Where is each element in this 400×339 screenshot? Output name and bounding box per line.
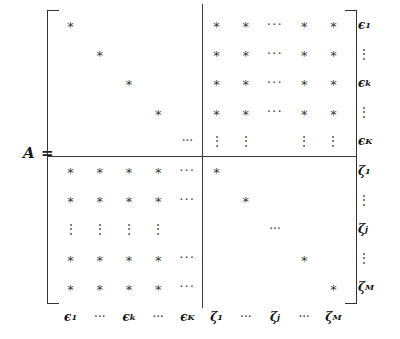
matrix-cell: * xyxy=(114,68,143,97)
row-label: ϵK xyxy=(356,127,398,156)
column-labels: ϵ1···ϵk···ϵKζ1···ζj···ζM xyxy=(56,304,348,330)
vdots-ellipsis: ⋮ xyxy=(123,223,135,235)
matrix-entry-star: * xyxy=(97,282,104,295)
matrix-cell xyxy=(231,244,260,273)
matrix-entry-star: * xyxy=(301,253,308,266)
column-label: ζj xyxy=(260,304,289,330)
matrix-cell: * xyxy=(85,244,114,273)
row-label-ellipsis: ⋮ xyxy=(356,98,398,127)
matrix-cell: * xyxy=(290,68,319,97)
matrix-cell: * xyxy=(56,10,85,39)
matrix-cell: ⋮ xyxy=(114,214,143,243)
hdots-ellipsis: ··· xyxy=(267,48,283,60)
matrix-cell: * xyxy=(231,10,260,39)
matrix-entry-star: * xyxy=(301,78,308,91)
ddots-ellipsis: ··· xyxy=(182,135,193,147)
matrix-entry-star: * xyxy=(126,195,133,208)
vdots-ellipsis: ⋮ xyxy=(65,223,77,235)
matrix-cell: * xyxy=(144,244,173,273)
vdots-ellipsis: ⋮ xyxy=(240,135,252,147)
matrix-entry-star: * xyxy=(126,78,133,91)
matrix-cell xyxy=(231,214,260,243)
block-matrix-figure: A = ***···*****···*****···*****···**···⋮… xyxy=(0,0,400,339)
matrix-cell xyxy=(144,39,173,68)
matrix-cell xyxy=(173,39,202,68)
matrix-cell xyxy=(260,244,289,273)
matrix-entry-star: * xyxy=(155,195,162,208)
hdots-ellipsis: ··· xyxy=(179,165,195,177)
matrix-entry-star: * xyxy=(213,166,220,179)
matrix-cell xyxy=(173,214,202,243)
matrix-cell: * xyxy=(319,273,348,302)
vdots-ellipsis: ⋮ xyxy=(211,135,223,147)
matrix-entry-star: * xyxy=(301,49,308,62)
matrix-body: ***···*****···*****···*****···**···⋮⋮⋮⋮*… xyxy=(56,10,348,302)
matrix-cell: * xyxy=(290,10,319,39)
matrix-cell: * xyxy=(114,244,143,273)
matrix-cell: * xyxy=(56,273,85,302)
matrix-cell xyxy=(202,214,231,243)
hdots-ellipsis: ··· xyxy=(267,19,283,31)
matrix-cell xyxy=(319,185,348,214)
row-label: ζj xyxy=(356,214,398,243)
matrix-cell: ⋮ xyxy=(290,127,319,156)
matrix-cell: * xyxy=(202,10,231,39)
row-labels: ϵ1⋮ϵk⋮ϵKζ1⋮ζj⋮ζM xyxy=(356,10,398,302)
matrix-cell xyxy=(290,156,319,185)
matrix-cell: * xyxy=(144,185,173,214)
matrix-cell xyxy=(114,98,143,127)
matrix-cell: * xyxy=(85,185,114,214)
row-label: ζ1 xyxy=(356,156,398,185)
matrix-cell xyxy=(231,273,260,302)
matrix-cell: * xyxy=(202,98,231,127)
matrix-cell: * xyxy=(231,68,260,97)
matrix-cell xyxy=(260,156,289,185)
matrix-cell xyxy=(85,127,114,156)
column-label: ζM xyxy=(319,304,348,330)
ddots-ellipsis: ··· xyxy=(269,223,280,235)
matrix-entry-star: * xyxy=(97,195,104,208)
matrix-entry-star: * xyxy=(67,282,74,295)
matrix-entry-star: * xyxy=(155,253,162,266)
matrix-entry-star: * xyxy=(330,107,337,120)
matrix-cell xyxy=(173,10,202,39)
matrix-cell xyxy=(202,273,231,302)
matrix-cell xyxy=(85,98,114,127)
matrix-cell: ··· xyxy=(260,10,289,39)
matrix-cell xyxy=(56,68,85,97)
matrix-cell: * xyxy=(56,244,85,273)
matrix-cell-grid: ***···*****···*****···*****···**···⋮⋮⋮⋮*… xyxy=(56,10,348,302)
matrix-cell: ··· xyxy=(260,214,289,243)
hdots-ellipsis: ··· xyxy=(267,77,283,89)
matrix-cell: * xyxy=(114,185,143,214)
matrix-cell: * xyxy=(144,273,173,302)
matrix-cell xyxy=(114,127,143,156)
matrix-cell: * xyxy=(231,98,260,127)
matrix-cell: * xyxy=(231,185,260,214)
matrix-cell: ··· xyxy=(260,39,289,68)
column-label: ζ1 xyxy=(202,304,231,330)
matrix-cell: ··· xyxy=(173,156,202,185)
matrix-entry-star: * xyxy=(213,78,220,91)
matrix-cell: * xyxy=(290,98,319,127)
matrix-cell: * xyxy=(319,10,348,39)
matrix-cell xyxy=(144,127,173,156)
matrix-entry-star: * xyxy=(243,20,250,33)
matrix-cell: * xyxy=(144,156,173,185)
row-label: ϵk xyxy=(356,68,398,97)
matrix-entry-star: * xyxy=(213,107,220,120)
matrix-cell: * xyxy=(144,98,173,127)
column-label-ellipsis: ··· xyxy=(144,304,173,330)
matrix-cell xyxy=(144,68,173,97)
matrix-entry-star: * xyxy=(97,253,104,266)
matrix-cell xyxy=(260,273,289,302)
matrix-cell: * xyxy=(202,68,231,97)
row-label-ellipsis: ⋮ xyxy=(356,244,398,273)
matrix-cell xyxy=(56,98,85,127)
matrix-entry-star: * xyxy=(213,49,220,62)
matrix-cell: ··· xyxy=(260,98,289,127)
matrix-entry-star: * xyxy=(97,49,104,62)
matrix-cell: * xyxy=(290,39,319,68)
matrix-entry-star: * xyxy=(330,78,337,91)
matrix-cell xyxy=(319,156,348,185)
